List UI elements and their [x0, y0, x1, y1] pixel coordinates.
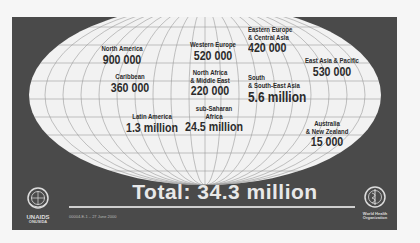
region-name-line2: & Central Asia: [248, 34, 298, 42]
region-name: Latin America: [124, 113, 180, 121]
who-emblem-icon: [362, 184, 388, 210]
region-sub-saharan-africa: sub-Saharan Africa 24.5 million: [176, 105, 252, 134]
region-value: 360 000: [105, 82, 156, 95]
region-value: 420 000: [248, 42, 301, 55]
region-name-line2: & South-East Asia: [248, 82, 304, 90]
region-value: 900 000: [92, 54, 152, 67]
un-emblem-icon: [25, 185, 51, 211]
region-name-line2: & New Zealand: [303, 128, 351, 136]
logo-line2: ONUSIDA: [23, 220, 53, 224]
region-value: 24.5 million: [182, 121, 247, 134]
total-label: Total: 34.3 million: [130, 180, 320, 204]
region-name: East Asia & Pacific: [300, 57, 364, 65]
region-north-america: North America 900 000: [87, 45, 157, 66]
logo-line2: Organization: [357, 216, 393, 220]
divider: [69, 206, 355, 208]
region-north-africa-middle-east: North Africa & Middle East 220 000: [176, 69, 244, 98]
region-value: 530 000: [298, 66, 366, 79]
region-value: 1.3 million: [122, 122, 182, 135]
region-eastern-europe-central-asia: Eastern Europe & Central Asia 420 000: [248, 26, 310, 55]
region-value: 15 000: [302, 136, 353, 149]
region-name: Western Europe: [185, 41, 241, 49]
footnote: 00004-E-1 – 27 June 2000: [69, 214, 116, 219]
region-value: 220 000: [181, 85, 239, 98]
region-name: Caribbean: [106, 73, 154, 81]
region-name: North America: [94, 45, 150, 53]
region-name-line2: & Middle East: [183, 77, 237, 85]
region-value: 520 000: [183, 50, 243, 63]
region-western-europe: Western Europe 520 000: [178, 41, 248, 62]
region-australia-new-zealand: Australia & New Zealand 15 000: [297, 120, 357, 149]
region-caribbean: Caribbean 360 000: [100, 73, 160, 94]
region-value: 5.6 million: [248, 90, 308, 104]
region-name-line2: Africa: [184, 113, 245, 121]
region-south-south-east-asia: South & South-East Asia 5.6 million: [248, 74, 318, 104]
who-logo-text: World Health Organization: [357, 212, 393, 220]
region-east-asia-pacific: East Asia & Pacific 530 000: [292, 57, 372, 78]
unaids-logo-text: UNAIDS ONUSIDA: [23, 214, 53, 224]
slide: North America 900 000 Caribbean 360 000 …: [12, 17, 397, 230]
